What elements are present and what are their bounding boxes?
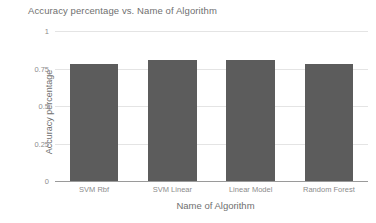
- x-tick-label: SVM Rbf: [79, 185, 109, 194]
- bar[interactable]: [70, 64, 119, 181]
- bar-group[interactable]: [226, 31, 275, 181]
- y-tick-label: 0.25: [9, 139, 49, 148]
- plot-area: [55, 31, 368, 181]
- y-tick-label: 0.5: [9, 102, 49, 111]
- x-tick-label: Linear Model: [229, 185, 272, 194]
- bar-chart: Accuracy percentage vs. Name of Algorith…: [0, 0, 376, 223]
- x-tick-label: Random Forest: [303, 185, 355, 194]
- x-axis-title: Name of Algorithm: [0, 200, 376, 211]
- bar-group[interactable]: [305, 31, 354, 181]
- x-axis-title-text: Name of Algorithm: [121, 200, 254, 211]
- bar[interactable]: [226, 60, 275, 182]
- x-tick-label: SVM Linear: [153, 185, 192, 194]
- bar[interactable]: [305, 64, 354, 181]
- y-tick-label: 1: [9, 27, 49, 36]
- bar-group[interactable]: [70, 31, 119, 181]
- bar[interactable]: [148, 60, 197, 182]
- x-axis-line: [55, 181, 368, 182]
- bar-group[interactable]: [148, 31, 197, 181]
- chart-title: Accuracy percentage vs. Name of Algorith…: [28, 5, 217, 16]
- y-tick-label: 0.75: [9, 64, 49, 73]
- y-tick-label: 0: [9, 177, 49, 186]
- bars-layer: [55, 31, 368, 181]
